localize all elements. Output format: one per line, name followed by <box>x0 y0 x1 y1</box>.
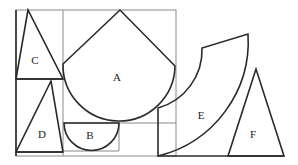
label-c: C <box>31 55 38 66</box>
puzzle-diagram: C A D B E F <box>0 0 298 165</box>
shape-outlines <box>16 10 284 156</box>
label-d: D <box>38 129 46 140</box>
diagram-drawing <box>0 0 298 165</box>
shape-d <box>16 81 63 152</box>
shape-a <box>63 10 175 121</box>
shape-c <box>16 10 63 79</box>
shape-f <box>228 69 284 156</box>
label-b: B <box>86 130 93 141</box>
label-f: F <box>250 129 256 140</box>
label-e: E <box>198 110 205 121</box>
label-a: A <box>113 72 121 83</box>
